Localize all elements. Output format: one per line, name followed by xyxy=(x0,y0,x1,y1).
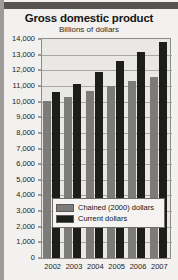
chart-title: Gross domestic product xyxy=(0,12,178,24)
bar-chained-dollars xyxy=(150,77,158,258)
x-axis-tick-label: 2006 xyxy=(130,262,147,271)
y-axis-tick-label: 13,000 xyxy=(12,51,35,59)
chart-legend: Chained (2000) dollars Current dollars xyxy=(52,198,165,228)
legend-label-current: Current dollars xyxy=(78,214,127,223)
bar-current-dollars xyxy=(95,72,103,258)
y-axis-tick-label: 14,000 xyxy=(12,35,35,43)
y-axis-tick-label: 11,000 xyxy=(13,82,35,90)
y-axis-tick-label: 4,000 xyxy=(16,191,35,199)
bar-current-dollars xyxy=(52,92,60,258)
y-axis-tick-label: 7,000 xyxy=(16,145,35,153)
bar-chained-dollars xyxy=(86,91,94,258)
bar-chained-dollars xyxy=(107,86,115,258)
chart-subtitle: Billions of dollars xyxy=(0,25,178,34)
x-axis-tick-label: 2003 xyxy=(66,262,83,271)
bar-chained-dollars xyxy=(64,97,72,258)
y-axis-tick-label: 6,000 xyxy=(16,160,35,168)
x-axis: 200220032004200520062007 xyxy=(41,262,171,274)
y-axis-tick-label: 12,000 xyxy=(12,66,35,74)
header-bar xyxy=(4,2,178,9)
bar-current-dollars xyxy=(73,84,81,258)
y-axis-tick-label: 3,000 xyxy=(16,207,35,215)
legend-label-chained: Chained (2000) dollars xyxy=(78,203,154,212)
bar-current-dollars xyxy=(116,61,124,258)
y-axis-tick-label: 0 xyxy=(31,254,35,262)
y-axis-tick-label: 9,000 xyxy=(16,113,35,121)
x-axis-tick-label: 2004 xyxy=(87,262,104,271)
x-axis-tick-label: 2007 xyxy=(151,262,168,271)
y-axis-tick-label: 10,000 xyxy=(12,98,35,106)
x-axis-tick-label: 2002 xyxy=(44,262,61,271)
y-axis-tick-label: 5,000 xyxy=(16,176,35,184)
y-axis-tick-label: 2,000 xyxy=(16,223,35,231)
bar-chained-dollars xyxy=(128,81,136,258)
bar-chained-dollars xyxy=(43,101,51,258)
legend-item-chained: Chained (2000) dollars xyxy=(56,202,161,213)
y-axis-tick-label: 8,000 xyxy=(16,129,35,137)
y-axis-tick-label: 1,000 xyxy=(16,238,35,246)
legend-swatch-current xyxy=(56,215,74,223)
legend-swatch-chained xyxy=(56,204,74,212)
chart-figure: Gross domestic product Billions of dolla… xyxy=(0,0,178,280)
legend-item-current: Current dollars xyxy=(56,213,161,224)
y-axis: 01,0002,0003,0004,0005,0006,0007,0008,00… xyxy=(0,38,38,259)
x-axis-tick-label: 2005 xyxy=(108,262,125,271)
